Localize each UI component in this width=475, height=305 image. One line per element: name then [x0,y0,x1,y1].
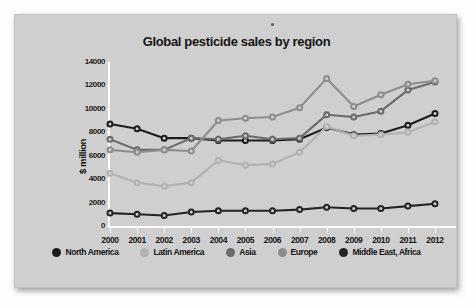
data-point[interactable] [378,92,383,97]
legend-item-north-america[interactable]: North America [52,247,118,257]
data-point[interactable] [297,136,302,141]
x-tick-mark [110,228,111,233]
plot-wrapper: $ million 020004000600080001000012000140… [56,56,447,226]
data-point[interactable] [162,213,167,218]
data-point[interactable] [135,150,140,155]
data-point[interactable] [162,147,167,152]
x-tick-label: 2009 [345,235,362,245]
data-point[interactable] [135,180,140,185]
x-tick-mark [327,228,328,233]
x-tick-mark [164,228,165,233]
data-point[interactable] [351,133,356,138]
legend-label: Europe [291,247,318,257]
data-point[interactable] [243,116,248,121]
data-point[interactable] [189,149,194,154]
data-point[interactable] [108,171,113,176]
data-point[interactable] [189,209,194,214]
data-point[interactable] [405,204,410,209]
x-tick-mark [408,228,409,233]
data-point[interactable] [270,137,275,142]
legend-label: North America [65,247,118,257]
data-point[interactable] [405,88,410,93]
data-point[interactable] [216,158,221,163]
data-point[interactable] [378,132,383,137]
x-tick-mark [381,228,382,233]
y-tick-label: 0 [101,222,105,230]
data-point[interactable] [108,211,113,216]
data-point[interactable] [270,208,275,213]
legend-item-europe[interactable]: Europe [278,247,318,257]
data-point[interactable] [378,109,383,114]
data-point[interactable] [243,133,248,138]
chart-legend: North AmericaLatin AmericaAsiaEuropeMidd… [15,247,457,257]
data-point[interactable] [351,104,356,109]
x-tick-mark [245,228,246,233]
screenshot-root: Global pesticide sales by region $ milli… [0,0,475,305]
data-point[interactable] [216,137,221,142]
x-tick-mark [354,228,355,233]
legend-marker-icon [140,248,149,257]
x-tick-label: 2010 [372,235,389,245]
data-point[interactable] [351,206,356,211]
data-point[interactable] [135,126,140,131]
x-tick-label: 2002 [156,235,173,245]
x-tick-mark [191,228,192,233]
data-point[interactable] [351,115,356,120]
x-tick-mark [300,228,301,233]
data-point[interactable] [324,76,329,81]
data-point[interactable] [216,118,221,123]
series-middle-east-africa [108,201,438,218]
data-point[interactable] [324,112,329,117]
legend-marker-icon [278,248,287,257]
data-point[interactable] [243,163,248,168]
x-tick-label: 2004 [210,235,227,245]
legend-label: Asia [239,247,255,257]
data-point[interactable] [405,123,410,128]
data-point[interactable] [189,180,194,185]
x-tick-mark [137,228,138,233]
data-point[interactable] [405,130,410,135]
x-tick-label: 2001 [128,235,145,245]
data-point[interactable] [433,78,438,83]
data-point[interactable] [162,136,167,141]
legend-item-latin-america[interactable]: Latin America [140,247,204,257]
data-point[interactable] [108,137,113,142]
x-tick-label: 2005 [237,235,254,245]
data-point[interactable] [243,208,248,213]
data-point[interactable] [324,124,329,129]
chart-title: Global pesticide sales by region [15,34,457,49]
legend-marker-icon [52,248,61,257]
data-point[interactable] [270,115,275,120]
data-point[interactable] [162,184,167,189]
data-point[interactable] [270,161,275,166]
x-tick-label: 2008 [318,235,335,245]
x-tick-mark [435,228,436,233]
x-tick-label: 2007 [291,235,308,245]
chart-panel: Global pesticide sales by region $ milli… [14,14,457,288]
x-tick-label: 2006 [264,235,281,245]
x-tick-label: 2000 [101,235,118,245]
data-point[interactable] [405,82,410,87]
data-point[interactable] [189,136,194,141]
legend-item-middle-east-africa[interactable]: Middle East, Africa [339,247,420,257]
x-axis-line [108,226,457,228]
data-point[interactable] [433,119,438,124]
data-point[interactable] [108,147,113,152]
data-point[interactable] [324,205,329,210]
legend-marker-icon [339,248,348,257]
data-point[interactable] [297,207,302,212]
data-point[interactable] [297,150,302,155]
plot-area: 02000400060008000100001200014000 2000200… [83,59,443,223]
data-point[interactable] [433,201,438,206]
legend-item-asia[interactable]: Asia [226,247,255,257]
data-point[interactable] [433,111,438,116]
data-point[interactable] [135,212,140,217]
data-point[interactable] [378,206,383,211]
series-latin-america [108,119,438,188]
x-tick-label: 2011 [399,235,416,245]
data-point[interactable] [297,105,302,110]
x-tick-label: 2012 [426,235,443,245]
data-point[interactable] [216,208,221,213]
x-tick-label: 2003 [183,235,200,245]
data-point[interactable] [108,122,113,127]
